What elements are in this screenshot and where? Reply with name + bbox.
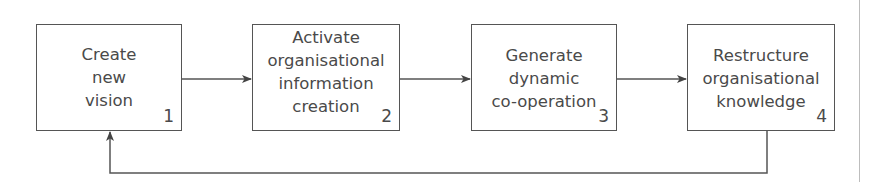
label-line: organisational [688,67,834,90]
step-box-create-new-vision: Create new vision 1 [36,24,182,131]
label-line: Activate [253,26,399,49]
label-line: knowledge [688,90,834,113]
label-line: dynamic [472,67,616,90]
step-number: 3 [598,106,609,126]
label-line: information [253,72,399,95]
step-label: Restructure organisational knowledge [688,44,834,113]
feedback-arrow-4-to-1 [110,131,767,173]
step-box-restructure-knowledge: Restructure organisational knowledge 4 [687,24,835,131]
label-line: vision [37,89,181,112]
label-line: creation [253,95,399,118]
step-box-generate-dynamic-co-operation: Generate dynamic co-operation 3 [471,24,617,131]
step-number: 1 [163,106,174,126]
label-line: new [37,66,181,89]
step-box-activate-information-creation: Activate organisational information crea… [252,24,400,131]
label-line: organisational [253,49,399,72]
label-line: Create [37,43,181,66]
step-label: Generate dynamic co-operation [472,44,616,113]
right-margin-rule [859,0,860,182]
step-label: Activate organisational information crea… [253,26,399,118]
label-line: Generate [472,44,616,67]
step-number: 4 [816,106,827,126]
step-label: Create new vision [37,43,181,112]
label-line: co-operation [472,90,616,113]
label-line: Restructure [688,44,834,67]
step-number: 2 [381,106,392,126]
